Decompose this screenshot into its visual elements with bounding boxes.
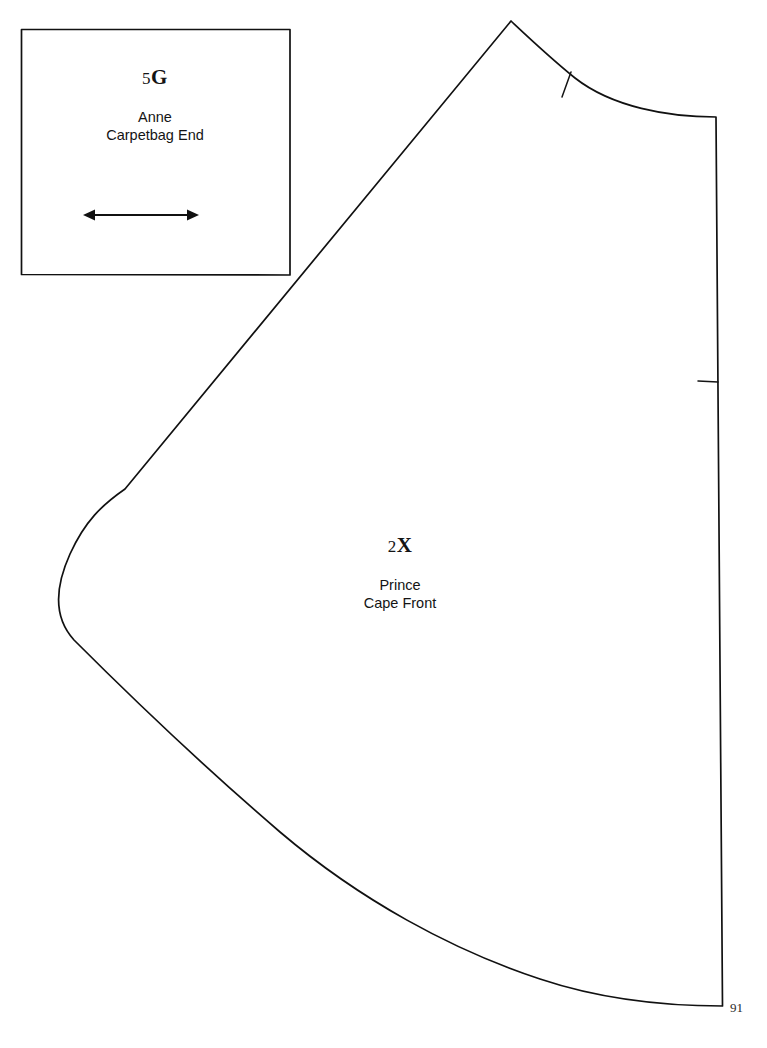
piece-code-number-5g: 5 <box>142 69 151 88</box>
piece-code-5g: 5G <box>0 65 310 90</box>
neckline-notch-2x <box>562 72 571 97</box>
side-notch-2x <box>698 381 718 382</box>
piece-code-2x: 2X <box>310 533 490 558</box>
piece-code-number-2x: 2 <box>388 537 397 556</box>
piece-name-5g: Anne Carpetbag End <box>0 108 310 144</box>
piece-code-letter-2x: X <box>397 533 413 557</box>
pattern-sheet: 5G Anne Carpetbag End 2X Prince Cape Fro… <box>0 0 767 1048</box>
piece-garment-2x: Prince <box>310 576 490 594</box>
grainline-arrow-5g <box>83 210 199 221</box>
piece-name-2x: Prince Cape Front <box>310 576 490 612</box>
piece-part-2x: Cape Front <box>310 594 490 612</box>
piece-2x-outline <box>59 21 723 1006</box>
pattern-drawing <box>0 0 767 1048</box>
piece-part-5g: Carpetbag End <box>0 126 310 144</box>
piece-garment-5g: Anne <box>0 108 310 126</box>
page-number: 91 <box>730 1000 743 1016</box>
piece-code-letter-5g: G <box>151 65 168 89</box>
